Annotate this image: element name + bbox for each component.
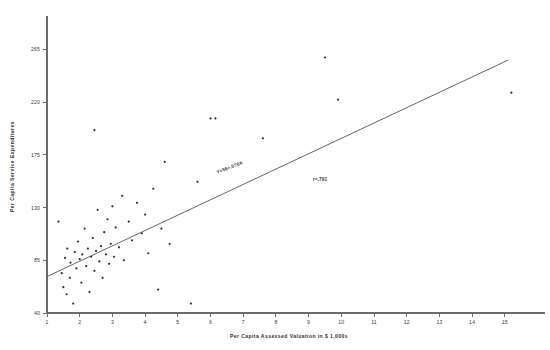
data-point	[87, 247, 89, 249]
data-point	[75, 267, 77, 269]
data-point	[131, 239, 133, 241]
data-point	[111, 205, 113, 207]
data-point	[74, 251, 76, 253]
data-point	[169, 243, 171, 245]
data-point	[64, 257, 66, 259]
data-point	[79, 258, 81, 260]
x-tick-label: 11	[371, 319, 377, 325]
y-axis-title: Per Capita Service Expenditures	[9, 121, 15, 212]
data-point	[136, 202, 138, 204]
x-tick-label: 13	[436, 319, 442, 325]
data-point	[88, 291, 90, 293]
data-point	[196, 181, 198, 183]
data-point	[118, 246, 120, 248]
x-tick-label: 7	[242, 319, 245, 325]
data-point	[510, 92, 512, 94]
data-point	[209, 117, 211, 119]
axes-group	[47, 16, 545, 313]
data-point	[84, 228, 86, 230]
data-point	[337, 99, 339, 101]
data-point	[57, 220, 59, 222]
data-point	[85, 265, 87, 267]
data-point	[147, 252, 149, 254]
x-axis-ticks: 123456789101112131415	[45, 313, 507, 325]
scatter-chart: 4085130175220265 123456789101112131415 Y…	[0, 0, 550, 350]
y-tick-label: 85	[34, 257, 40, 263]
x-tick-label: 3	[111, 319, 114, 325]
data-point	[106, 218, 108, 220]
data-point	[77, 240, 79, 242]
data-point	[324, 56, 326, 58]
x-tick-label: 14	[469, 319, 475, 325]
data-point	[144, 213, 146, 215]
data-point	[92, 237, 94, 239]
data-point	[164, 161, 166, 163]
data-point	[69, 277, 71, 279]
correlation-coefficient: r=.791	[313, 177, 328, 182]
data-point	[123, 259, 125, 261]
data-point	[93, 129, 95, 131]
data-point	[61, 272, 63, 274]
data-point	[157, 288, 159, 290]
data-point	[62, 286, 64, 288]
data-point	[160, 228, 162, 230]
regression-line-group	[47, 60, 508, 276]
y-tick-label: 130	[31, 205, 40, 211]
data-point	[108, 263, 110, 265]
data-point	[81, 253, 83, 255]
x-tick-label: 5	[176, 319, 179, 325]
x-tick-label: 15	[502, 319, 508, 325]
data-point	[190, 303, 192, 305]
data-point	[95, 250, 97, 252]
x-tick-label: 4	[144, 319, 147, 325]
x-tick-label: 12	[404, 319, 410, 325]
data-point	[110, 243, 112, 245]
data-point	[97, 209, 99, 211]
data-point	[98, 260, 100, 262]
data-point	[121, 195, 123, 197]
x-tick-label: 10	[338, 319, 344, 325]
data-point	[115, 226, 117, 228]
data-point	[80, 281, 82, 283]
regression-line	[47, 60, 508, 276]
x-tick-label: 2	[78, 319, 81, 325]
regression-equation: Y=58+.0?0X	[216, 160, 244, 175]
data-point	[66, 247, 68, 249]
y-tick-label: 265	[31, 46, 40, 52]
y-tick-label: 220	[31, 99, 40, 105]
data-point	[113, 256, 115, 258]
y-tick-label: 40	[34, 310, 40, 316]
x-tick-label: 1	[45, 319, 48, 325]
x-tick-label: 8	[274, 319, 277, 325]
data-point	[72, 303, 74, 305]
x-tick-label: 6	[209, 319, 212, 325]
data-point	[262, 137, 264, 139]
data-point	[214, 117, 216, 119]
data-point	[69, 262, 71, 264]
data-point	[103, 231, 105, 233]
x-axis-title: Per Capita Assessed Valuation in $ 1,000…	[230, 333, 348, 339]
data-points-group	[57, 56, 512, 304]
data-point	[66, 293, 68, 295]
data-point	[101, 277, 103, 279]
y-axis-ticks: 4085130175220265	[31, 46, 47, 316]
chart-canvas: 4085130175220265 123456789101112131415 Y…	[0, 0, 550, 350]
data-point	[128, 220, 130, 222]
data-point	[93, 270, 95, 272]
data-point	[100, 245, 102, 247]
x-tick-label: 9	[307, 319, 310, 325]
data-point	[105, 253, 107, 255]
y-tick-label: 175	[31, 152, 40, 158]
data-point	[152, 188, 154, 190]
